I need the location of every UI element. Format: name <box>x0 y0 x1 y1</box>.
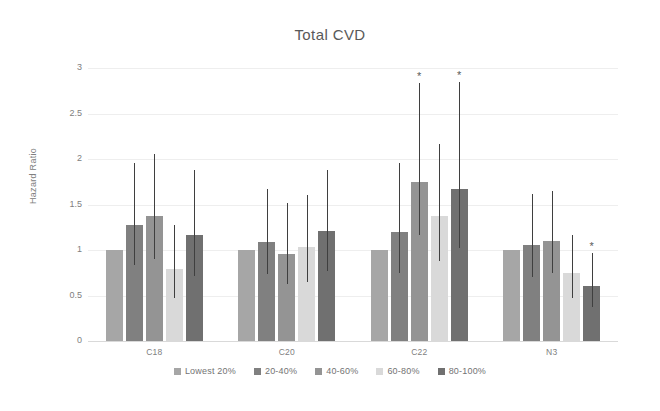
y-tick-label: 0.5 <box>48 290 82 300</box>
legend-label: Lowest 20% <box>185 366 236 376</box>
error-bar <box>287 203 288 284</box>
x-tick-label: C20 <box>279 347 295 357</box>
gridline <box>88 205 618 206</box>
y-axis-label: Hazard Ratio <box>28 148 38 204</box>
legend-item[interactable]: 80-100% <box>438 366 486 376</box>
legend-item[interactable]: 40-60% <box>315 366 358 376</box>
chart-container: Total CVD Hazard Ratio 00.511.522.53 ***… <box>0 0 660 411</box>
y-axis-ticks: 00.511.522.53 <box>44 68 82 341</box>
bar <box>238 250 255 341</box>
significance-marker: * <box>457 71 461 79</box>
error-bar <box>572 235 573 299</box>
error-bar <box>439 144 440 260</box>
error-bar <box>327 170 328 271</box>
error-bar <box>552 191 553 273</box>
y-tick-label: 0 <box>48 335 82 345</box>
x-tick-label: C22 <box>411 347 427 357</box>
plot-area: *** <box>88 68 618 341</box>
error-bar <box>134 163 135 266</box>
error-bar <box>194 170 195 276</box>
error-bar <box>307 195 308 281</box>
x-tick-label: N3 <box>546 347 557 357</box>
legend-swatch-icon <box>174 368 181 375</box>
error-bar <box>419 83 420 235</box>
y-tick-label: 2 <box>48 153 82 163</box>
legend-item[interactable]: Lowest 20% <box>174 366 236 376</box>
y-tick-label: 3 <box>48 62 82 72</box>
y-tick-label: 1 <box>48 244 82 254</box>
bar <box>106 250 123 341</box>
error-bar <box>267 189 268 274</box>
legend-label: 80-100% <box>449 366 486 376</box>
error-bar <box>592 253 593 308</box>
legend-item[interactable]: 20-40% <box>254 366 297 376</box>
x-tick-label: C18 <box>146 347 162 357</box>
gridline <box>88 114 618 115</box>
legend-label: 60-80% <box>387 366 419 376</box>
legend-label: 20-40% <box>265 366 297 376</box>
error-bar <box>154 154 155 260</box>
error-bar <box>174 225 175 299</box>
legend-swatch-icon <box>254 368 261 375</box>
bar <box>371 250 388 341</box>
error-bar <box>399 163 400 273</box>
gridline <box>88 159 618 160</box>
error-bar <box>459 82 460 249</box>
x-axis-line <box>88 341 618 342</box>
gridline <box>88 68 618 69</box>
legend-swatch-icon <box>315 368 322 375</box>
error-bar <box>532 194 533 278</box>
significance-marker: * <box>417 72 421 80</box>
y-tick-label: 2.5 <box>48 108 82 118</box>
legend-swatch-icon <box>376 368 383 375</box>
significance-marker: * <box>590 242 594 250</box>
chart-title: Total CVD <box>0 26 660 43</box>
legend-item[interactable]: 60-80% <box>376 366 419 376</box>
chart-legend: Lowest 20%20-40%40-60%60-80%80-100% <box>0 366 660 376</box>
bar <box>503 250 520 341</box>
y-tick-label: 1.5 <box>48 199 82 209</box>
legend-label: 40-60% <box>326 366 358 376</box>
legend-swatch-icon <box>438 368 445 375</box>
